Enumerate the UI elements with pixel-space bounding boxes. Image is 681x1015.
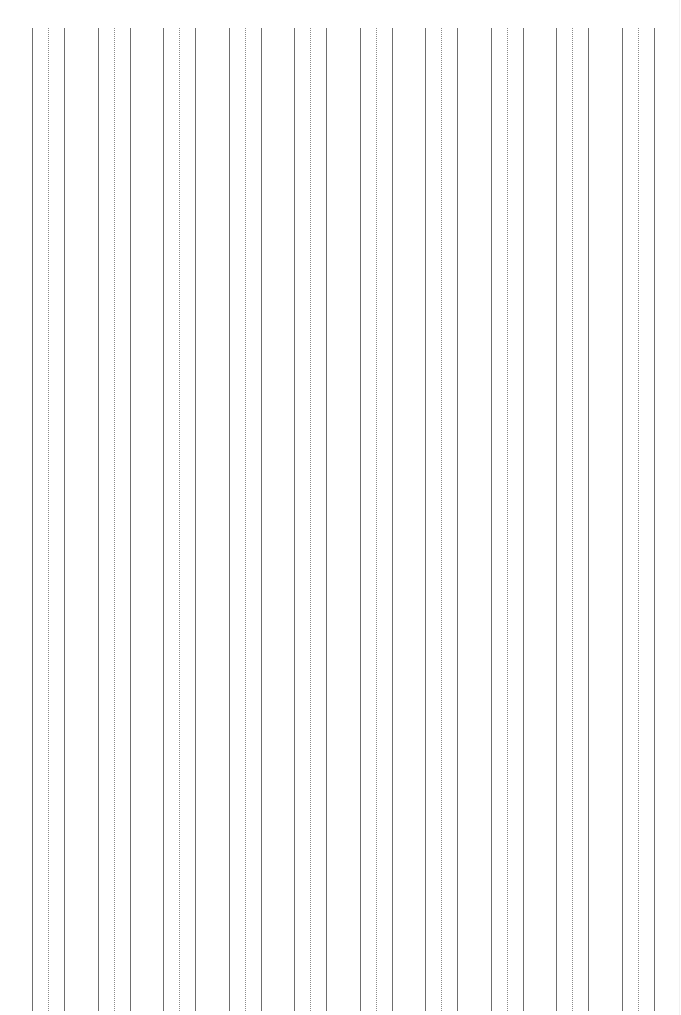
lined-practice-sheet: [0, 0, 681, 1015]
dotted-midline: [179, 28, 180, 1011]
solid-guide-line: [32, 28, 33, 1011]
solid-guide-line: [360, 28, 361, 1011]
solid-guide-line: [654, 28, 655, 1011]
solid-guide-line: [64, 28, 65, 1011]
dotted-midline: [507, 28, 508, 1011]
dotted-midline: [48, 28, 49, 1011]
solid-guide-line: [523, 28, 524, 1011]
solid-guide-line: [326, 28, 327, 1011]
page-edge-mark: [679, 0, 680, 1015]
dotted-midline: [245, 28, 246, 1011]
solid-guide-line: [556, 28, 557, 1011]
solid-guide-line: [622, 28, 623, 1011]
solid-guide-line: [588, 28, 589, 1011]
dotted-midline: [572, 28, 573, 1011]
solid-guide-line: [425, 28, 426, 1011]
dotted-midline: [441, 28, 442, 1011]
solid-guide-line: [163, 28, 164, 1011]
solid-guide-line: [491, 28, 492, 1011]
solid-guide-line: [294, 28, 295, 1011]
solid-guide-line: [130, 28, 131, 1011]
solid-guide-line: [261, 28, 262, 1011]
dotted-midline: [310, 28, 311, 1011]
dotted-midline: [114, 28, 115, 1011]
solid-guide-line: [457, 28, 458, 1011]
solid-guide-line: [229, 28, 230, 1011]
dotted-midline: [376, 28, 377, 1011]
solid-guide-line: [98, 28, 99, 1011]
dotted-midline: [638, 28, 639, 1011]
solid-guide-line: [195, 28, 196, 1011]
solid-guide-line: [392, 28, 393, 1011]
